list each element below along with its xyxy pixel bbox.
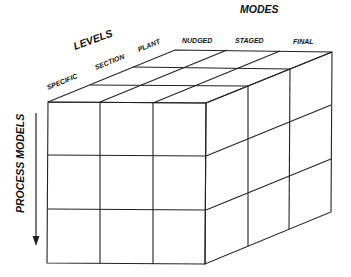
cube-diagram: MODES LEVELS SPECIFIC SECTION PLANT NUDG… (0, 0, 351, 277)
mode-label-staged: STAGED (235, 37, 264, 44)
front-face (47, 102, 206, 264)
mode-label-nudged: NUDGED (182, 37, 212, 44)
mode-label-final: FINAL (293, 38, 314, 45)
down-arrow-icon (33, 113, 40, 246)
level-label-plant: PLANT (137, 37, 162, 53)
level-label-specific: SPECIFIC (46, 72, 79, 91)
levels-title: LEVELS (72, 27, 114, 52)
process-models-label: PROCESS MODELS (14, 114, 26, 213)
level-label-section: SECTION (94, 52, 126, 70)
right-face (205, 52, 332, 264)
modes-title: MODES (240, 3, 279, 15)
